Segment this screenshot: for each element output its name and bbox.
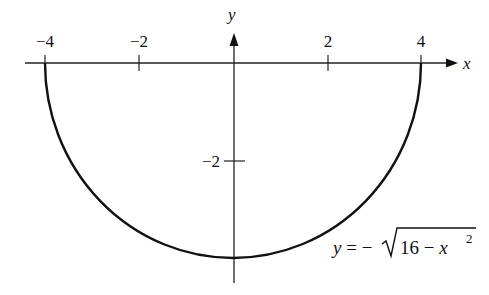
eq-exponent: 2	[466, 231, 473, 246]
eq-y: y	[331, 237, 342, 258]
y-axis-arrow-icon	[230, 33, 239, 46]
x-axis-arrow-icon	[446, 59, 458, 68]
x-tick-label: −4	[36, 32, 55, 51]
eq-x: x	[438, 237, 448, 258]
svg-text:16 − x: 16 − x	[400, 237, 448, 258]
eq-body: 16 −	[400, 237, 439, 258]
x-axis-label: x	[462, 54, 471, 73]
x-tick-label: 4	[417, 32, 426, 51]
y-tick-label: −2	[202, 152, 220, 171]
chart-canvas: x y −4 −2 2 4 −2 y = − 16 − x 2	[0, 0, 489, 295]
x-tick-label: −2	[130, 32, 148, 51]
y-axis-label: y	[226, 5, 236, 24]
svg-text:y = −: y = −	[331, 237, 372, 258]
x-tick-label: 2	[324, 32, 333, 51]
equation-label: y = − 16 − x 2	[331, 228, 476, 258]
eq-equals-neg: = −	[341, 237, 372, 258]
